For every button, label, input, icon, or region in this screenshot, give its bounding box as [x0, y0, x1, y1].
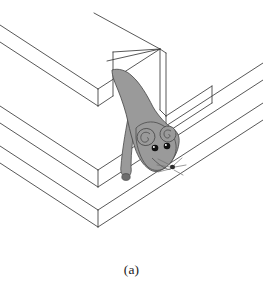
figure-panel: Isometric line drawing of a staircase wi… [0, 0, 263, 303]
mouse-eye-left [152, 145, 159, 152]
mouse-nose [170, 165, 175, 169]
mouse-paw [122, 174, 130, 181]
staircase-mouse-illustration: Isometric line drawing of a staircase wi… [0, 0, 263, 268]
figure-caption: (a) [0, 262, 263, 278]
mouse-eye-right [164, 143, 171, 150]
